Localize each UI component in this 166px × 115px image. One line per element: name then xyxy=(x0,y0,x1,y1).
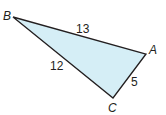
vertex-label-a: A xyxy=(148,43,157,57)
edge-label-ba: 13 xyxy=(76,22,90,36)
triangle-diagram: B A C 13 12 5 xyxy=(0,0,166,115)
vertex-label-c: C xyxy=(108,101,117,115)
edge-label-ac: 5 xyxy=(131,75,138,89)
edge-label-bc: 12 xyxy=(50,59,64,73)
triangle-svg: B A C 13 12 5 xyxy=(0,0,166,115)
vertex-label-b: B xyxy=(3,9,11,23)
